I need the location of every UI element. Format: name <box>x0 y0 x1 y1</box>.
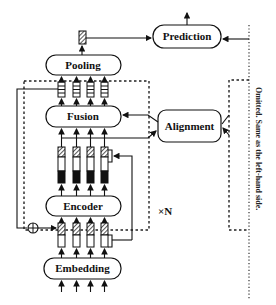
fused-to-pooling-arrows <box>62 77 105 82</box>
prediction-label: Prediction <box>163 30 212 42</box>
token-vectors <box>58 223 108 247</box>
input-to-encoder-arrows <box>62 218 105 223</box>
right-to-alignment-line-a <box>222 115 229 124</box>
architecture-diagram: Prediction Pooling <box>0 0 276 305</box>
encoder-label: Encoder <box>63 200 103 212</box>
omitted-branch-box <box>229 80 249 230</box>
encoded-to-alignment-arrow <box>62 131 157 138</box>
embedding-label: Embedding <box>55 262 110 274</box>
fusion-label: Fusion <box>67 110 99 122</box>
fused-vectors <box>58 82 108 97</box>
pooled-vector <box>79 31 86 44</box>
right-to-alignment-arrow <box>223 128 229 135</box>
fusion-to-fused-arrows <box>62 99 105 106</box>
alignment-label: Alignment <box>165 120 215 132</box>
input-bracket <box>108 235 112 247</box>
alignment-to-fusion-arrow <box>123 115 158 122</box>
encoder-to-encoded-arrows <box>62 185 105 196</box>
encoded-vectors <box>58 147 108 183</box>
encoded-bracket <box>108 150 112 162</box>
omitted-note: Omitted. Same as the left-hand side. <box>254 87 263 210</box>
embedding-to-token-arrows <box>62 249 105 258</box>
raw-input-arrows <box>62 281 105 292</box>
pooling-label: Pooling <box>65 59 101 71</box>
repeat-label: ×N <box>158 205 172 217</box>
